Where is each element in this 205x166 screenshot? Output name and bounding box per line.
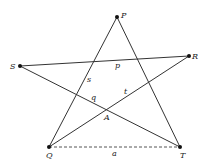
edge-S-R	[20, 56, 189, 66]
point-S	[18, 64, 22, 68]
edge-P-Q	[49, 17, 117, 147]
edge-S-T	[20, 66, 180, 147]
label-A: A	[103, 113, 110, 122]
label-R: R	[191, 52, 198, 61]
point-P	[115, 15, 119, 19]
diagram-svg: P R S Q T p s q t A a	[0, 0, 205, 166]
label-P: P	[120, 11, 127, 20]
point-T	[178, 145, 182, 149]
label-s: s	[87, 75, 91, 84]
label-q: q	[91, 93, 96, 102]
label-t: t	[124, 87, 128, 96]
label-Q: Q	[46, 151, 53, 160]
point-Q	[47, 145, 51, 149]
label-S: S	[10, 62, 16, 71]
label-a: a	[112, 149, 117, 158]
label-p: p	[115, 61, 120, 70]
pentagram-diagram: P R S Q T p s q t A a	[0, 0, 205, 166]
point-R	[187, 54, 191, 58]
label-T: T	[180, 151, 186, 160]
